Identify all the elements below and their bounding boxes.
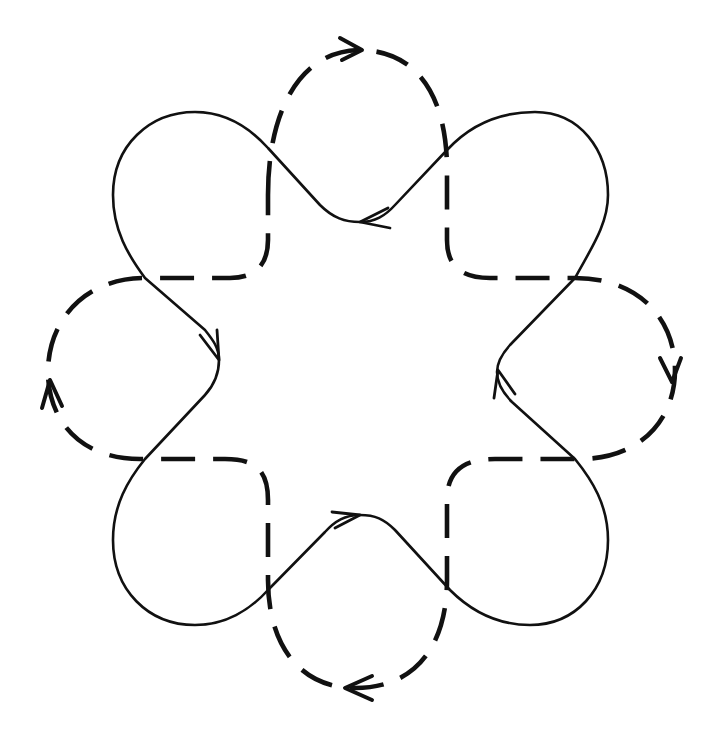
arrow-right-icon bbox=[332, 512, 360, 528]
dashed-curve bbox=[48, 50, 675, 688]
arrow-down-icon bbox=[660, 358, 681, 382]
solid-curve bbox=[113, 112, 608, 625]
arrow-left-icon bbox=[360, 208, 390, 228]
knot-diagram bbox=[0, 0, 714, 739]
